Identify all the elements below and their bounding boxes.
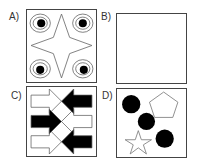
panel-c[interactable] bbox=[26, 86, 97, 157]
black-circle-shape bbox=[156, 130, 174, 148]
black-dot-shape bbox=[80, 66, 88, 74]
black-left-arrow-shape bbox=[62, 130, 92, 154]
panel-d[interactable] bbox=[116, 88, 187, 158]
black-dot-shape bbox=[36, 66, 44, 74]
panel-a-label: A) bbox=[9, 12, 19, 22]
white-left-arrow-shape bbox=[62, 109, 92, 133]
panel-a-figure bbox=[27, 10, 96, 82]
panel-b[interactable] bbox=[116, 13, 187, 84]
panel-c-label: C) bbox=[11, 91, 22, 101]
pentagon-shape bbox=[149, 92, 177, 117]
panel-d-figure bbox=[117, 89, 186, 157]
white-right-arrow-shape bbox=[31, 130, 61, 154]
panel-d-label: D) bbox=[102, 91, 113, 101]
black-left-arrow-shape bbox=[62, 89, 92, 113]
panel-c-figure bbox=[27, 87, 96, 156]
panel-a[interactable] bbox=[26, 9, 97, 83]
star-shape bbox=[125, 131, 151, 154]
panel-b-label: B) bbox=[101, 12, 111, 22]
black-dot-shape bbox=[79, 19, 87, 27]
black-right-arrow-shape bbox=[31, 109, 61, 133]
black-dot-shape bbox=[37, 19, 45, 27]
black-circle-shape bbox=[138, 113, 155, 130]
white-right-arrow-shape bbox=[31, 89, 61, 113]
black-circle-shape bbox=[122, 95, 140, 113]
